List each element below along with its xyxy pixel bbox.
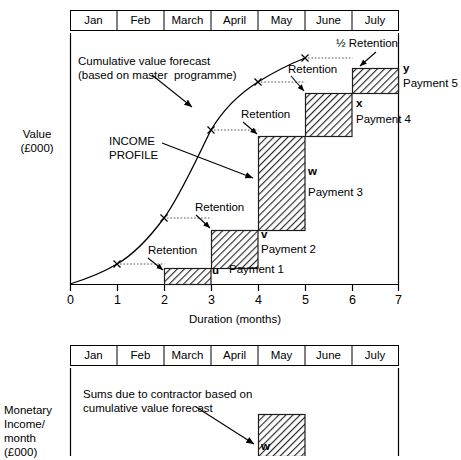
top-month-cell-march: March [164,14,211,28]
payment-bar-5 [353,69,399,94]
bottom-month-cell-july: July [352,349,398,363]
top-month-cell-feb: Feb [117,14,164,28]
top-month-cell-july: July [352,14,398,28]
bottom-month-cell-feb: Feb [117,349,164,363]
bottom-month-cell-june: June [305,349,352,363]
payment-2-variable: v [261,228,267,242]
retention-label-4: Retention [288,63,337,77]
monthly-income-bar-variable: w [261,440,270,454]
retention-arrow-1 [148,258,163,270]
cumulative-forecast-label-line2: (based on master programme) [78,69,237,83]
top-month-cell-may: May [258,14,305,28]
payment-2-label: Payment 2 [261,243,316,257]
payment-3-label: Payment 3 [308,186,363,200]
top-x-tick-2: 2 [154,293,175,308]
payment-5-variable: y [403,62,409,76]
income-profile-label-line2: PROFILE [109,149,158,163]
bottom-month-cell-jan: Jan [70,349,117,363]
retention-label-1: Retention [148,244,197,258]
top-x-tick-6: 6 [342,293,363,308]
top-x-tick-4: 4 [248,293,269,308]
curve-marker-month3 [208,127,215,134]
sums-due-note-line2: cumulative value forecast [83,402,213,416]
curve-marker-month4 [255,79,262,86]
top-x-tick-1: 1 [107,293,128,308]
top-x-tick-7: 7 [388,293,409,308]
bottom-month-cell-april: April [211,349,258,363]
top-x-tick-3: 3 [201,293,222,308]
payment-3-variable: w [308,165,317,179]
half-retention-label: ½ Retention [336,37,398,51]
top-y-axis-label-line1: Value [8,128,66,142]
income-profile-leader [162,143,253,178]
retention-arrow-3 [243,122,257,134]
curve-marker-month2 [161,215,168,222]
income-profile-label-line1: INCOME [109,135,155,149]
top-month-cell-june: June [305,14,352,28]
payment-4-label: Payment 4 [356,113,411,127]
bottom-month-cell-may: May [258,349,305,363]
half-retention-arrow [360,52,376,66]
payment-bar-3 [259,137,306,231]
top-chart-x-ticks [71,285,399,292]
payment-bar-1 [165,269,212,285]
payment-bar-4 [306,94,353,137]
top-x-axis-title: Duration (months) [175,313,295,327]
top-x-tick-0: 0 [60,293,81,308]
bottom-y-axis-label-line3: month [4,432,66,446]
cumulative-forecast-label-line1: Cumulative value forecast [78,55,210,69]
retention-arrow-4 [291,76,304,91]
retention-label-2: Retention [195,201,244,215]
top-month-cell-jan: Jan [70,14,117,28]
top-x-tick-5: 5 [295,293,316,308]
sums-due-note-line1: Sums due to contractor based on [83,388,252,402]
curve-marker-month5 [302,55,309,62]
retention-arrow-2 [196,215,210,228]
bottom-y-axis-label-line4: (£000) [4,446,66,460]
bottom-month-cell-march: March [164,349,211,363]
payment-5-label: Payment 5 [403,77,458,91]
curve-marker-month1 [114,261,121,268]
payment-4-variable: x [356,97,362,111]
top-y-axis-label-line2: (£000) [8,142,66,156]
payment-1-variable: u [212,264,219,278]
payment-1-label: Payment 1 [229,263,284,277]
top-month-cell-april: April [211,14,258,28]
bottom-y-axis-label-line1: Monetary [4,404,66,418]
retention-label-3: Retention [241,108,290,122]
bottom-y-axis-label-line2: Income/ [4,418,66,432]
